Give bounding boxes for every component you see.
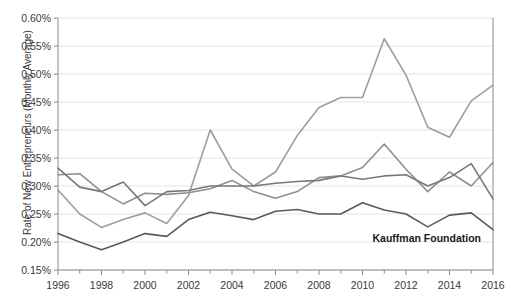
x-tick-label: 1996 [46,279,70,291]
data-series-line [58,144,493,204]
x-tick-label: 2004 [220,279,244,291]
x-tick-label: 2012 [394,279,418,291]
x-tick-label: 2010 [351,279,375,291]
chart-container: Rate of New Entrepreneurs (Monthly Avera… [0,0,506,302]
y-tick-label: 0.40% [21,124,51,136]
y-tick-label: 0.20% [21,236,51,248]
y-tick-label: 0.35% [21,152,51,164]
x-tick-label: 2016 [481,279,505,291]
y-tick-label: 0.15% [21,264,51,276]
y-tick-label: 0.55% [21,40,51,52]
source-annotation: Kauffman Foundation [373,232,482,244]
data-series-line [58,164,493,206]
y-tick-label: 0.25% [21,208,51,220]
y-tick-label: 0.30% [21,180,51,192]
y-tick-label: 0.50% [21,68,51,80]
x-tick-label: 2014 [438,279,462,291]
plot-area: 0.15%0.20%0.25%0.30%0.35%0.40%0.45%0.50%… [0,0,506,302]
x-tick-label: 2008 [307,279,331,291]
x-tick-label: 2006 [264,279,288,291]
data-series-line [58,39,493,228]
y-tick-label: 0.45% [21,96,51,108]
x-tick-label: 2000 [133,279,157,291]
line-chart-svg: 0.15%0.20%0.25%0.30%0.35%0.40%0.45%0.50%… [0,0,506,302]
x-tick-label: 2002 [177,279,201,291]
x-tick-label: 1998 [90,279,114,291]
y-tick-label: 0.60% [21,12,51,24]
